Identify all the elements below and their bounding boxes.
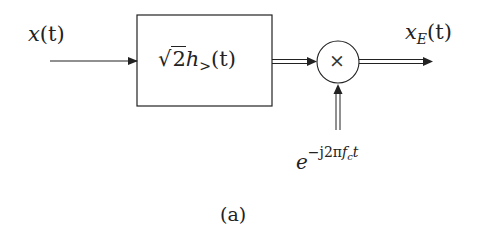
carrier-exponent: −j2πfct xyxy=(308,144,359,160)
multiply-icon: × xyxy=(329,49,345,71)
block-arg: (t) xyxy=(211,47,236,71)
sqrt-symbol: √ xyxy=(158,47,171,71)
carrier-label: e−j2πfct xyxy=(296,140,358,164)
carrier-arrow xyxy=(334,84,343,130)
exp-pre: −j2π xyxy=(308,144,342,160)
input-var: x xyxy=(28,22,40,46)
carrier-base: e xyxy=(296,150,308,174)
input-label: x(t) xyxy=(28,22,65,46)
block-h: h xyxy=(186,47,200,71)
input-arg: (t) xyxy=(40,22,65,46)
exp-t: t xyxy=(353,144,359,160)
caption: (a) xyxy=(220,203,246,225)
output-arg: (t) xyxy=(427,20,452,44)
block-to-multiplier-arrow xyxy=(272,57,317,66)
output-var: x xyxy=(405,20,417,44)
output-arrow xyxy=(359,57,433,66)
output-sub: E xyxy=(417,31,427,47)
sqrt-group: √2 xyxy=(158,47,186,71)
block-label: √2h>(t) xyxy=(158,47,236,74)
exp-f-sub: c xyxy=(347,151,353,162)
block-sub: > xyxy=(199,58,211,74)
sqrt-coef: 2 xyxy=(171,46,185,71)
output-label: xE(t) xyxy=(405,20,452,47)
